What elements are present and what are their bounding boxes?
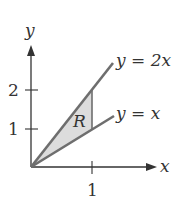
x-axis-arrow-icon	[146, 163, 157, 171]
y-tick-label-2: 2	[8, 80, 19, 100]
region-label: R	[72, 111, 86, 131]
line-y-2x	[31, 63, 113, 167]
x-axis-label: x	[160, 156, 170, 176]
y-axis-arrow-icon	[27, 45, 35, 56]
region-diagram: y x 1 1 2 y = 2x y = x R	[0, 0, 191, 199]
y-tick-label-1: 1	[8, 119, 19, 139]
y-axis-label: y	[24, 20, 35, 40]
x-tick-label-1: 1	[87, 180, 98, 199]
curve-label-y-x: y = x	[115, 103, 161, 123]
curve-label-y-2x: y = 2x	[115, 50, 171, 70]
